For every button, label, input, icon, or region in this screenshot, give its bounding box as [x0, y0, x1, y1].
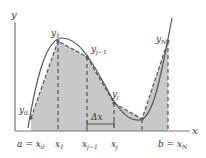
- trapezoid-rule-diagram: y x y0 y1 yj−1 yj yN Δx a = x0 x1 xj−1 x…: [0, 0, 206, 158]
- x-axis-label: x: [192, 125, 198, 136]
- label-yj-1: yj−1: [90, 44, 107, 56]
- delta-x-label: Δx: [90, 112, 103, 122]
- label-yN: yN: [155, 34, 167, 45]
- tick-label-xj-1: xj−1: [82, 139, 98, 151]
- tick-label-b: b = xN: [158, 139, 188, 150]
- tick-label-a: a = x0: [17, 139, 45, 150]
- label-y1: y1: [50, 28, 60, 39]
- tick-label-x1: x1: [55, 139, 64, 150]
- label-y0: y0: [18, 105, 28, 116]
- tick-label-xj: xj: [111, 139, 118, 151]
- y-axis-label: y: [10, 9, 17, 20]
